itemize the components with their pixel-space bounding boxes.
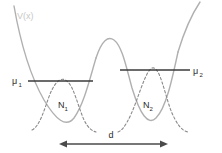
distance-arrow-group bbox=[59, 140, 168, 147]
axis-label-vx: V(x) bbox=[17, 11, 34, 21]
distance-arrowhead-left bbox=[59, 140, 67, 147]
distance-label: d bbox=[108, 130, 113, 140]
mu2-label: μ bbox=[193, 66, 198, 76]
potential-curve-left-wall bbox=[14, 6, 96, 122]
figure-canvas: V(x) μ 1 μ 2 N 1 N 2 d bbox=[0, 0, 222, 153]
distance-arrowhead-right bbox=[160, 140, 168, 147]
potential-curve-center-barrier bbox=[96, 39, 178, 121]
double-well-potential-figure: V(x) μ 1 μ 2 N 1 N 2 d bbox=[0, 0, 222, 153]
n2-label-subscript: 2 bbox=[150, 106, 154, 112]
potential-curve-right-wall bbox=[178, 2, 200, 52]
mu1-label-subscript: 1 bbox=[19, 82, 23, 88]
n1-label-group: N 1 bbox=[58, 100, 69, 112]
mu1-label-group: μ 1 bbox=[12, 76, 23, 88]
mu2-label-subscript: 2 bbox=[200, 72, 204, 78]
mu2-label-group: μ 2 bbox=[193, 66, 204, 78]
n1-label-subscript: 1 bbox=[65, 106, 69, 112]
mu1-label: μ bbox=[12, 76, 17, 86]
n2-label-group: N 2 bbox=[143, 100, 154, 112]
